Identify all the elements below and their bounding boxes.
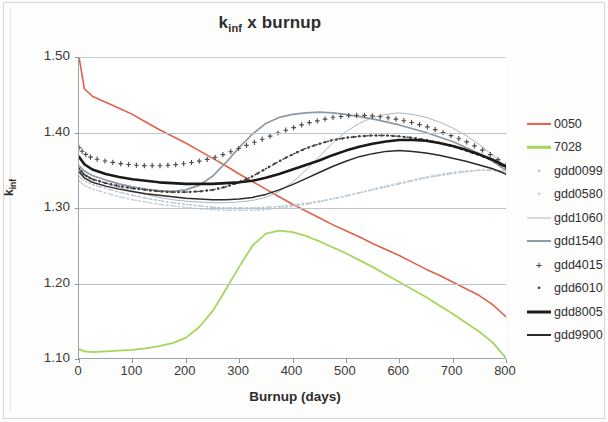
series-marker: [251, 175, 254, 178]
series-marker: [330, 198, 332, 200]
series-marker: [268, 134, 273, 139]
series-marker: [110, 183, 113, 186]
series-marker: [89, 187, 91, 189]
series-marker: [313, 144, 316, 147]
series-line-0050: [79, 57, 506, 317]
series-marker: [404, 181, 406, 183]
series-marker: [161, 200, 163, 202]
series-marker: [158, 163, 163, 168]
series-marker: [324, 141, 327, 144]
legend-item-gdd1060[interactable]: gdd1060: [527, 206, 605, 230]
legend-item-gdd0099[interactable]: •gdd0099: [527, 159, 605, 183]
legend-item-7028[interactable]: 7028: [527, 136, 605, 160]
legend-item-gdd6010[interactable]: •gdd6010: [527, 277, 605, 301]
series-marker: [369, 134, 372, 137]
series-marker: [150, 163, 155, 168]
legend-item-gdd0580[interactable]: •gdd0580: [527, 183, 605, 207]
series-marker: [335, 138, 338, 141]
series-marker: [181, 161, 186, 166]
series-marker: [307, 146, 310, 149]
series-marker: [245, 178, 248, 181]
x-tick-mark: [399, 359, 400, 363]
series-marker: [307, 120, 312, 125]
series-marker: [466, 170, 468, 172]
series-marker: [244, 143, 249, 148]
x-tick-mark: [186, 359, 187, 363]
series-marker: [80, 177, 82, 179]
series-marker: [132, 187, 135, 190]
legend-item-gdd9900[interactable]: gdd9900: [527, 324, 605, 348]
x-tick-label: 300: [218, 363, 258, 378]
series-marker: [252, 140, 257, 145]
legend-key-icon: •: [527, 281, 551, 295]
series-marker: [245, 209, 247, 211]
legend-item-gdd1540[interactable]: gdd1540: [527, 230, 605, 254]
chart-figure: kinf x burnup kinf 1.101.201.301.401.50 …: [0, 0, 608, 422]
series-marker: [84, 152, 89, 157]
series-marker: [488, 152, 493, 157]
series-marker: [116, 195, 118, 197]
series-marker: [331, 115, 336, 120]
series-marker: [256, 172, 259, 175]
series-marker: [85, 175, 88, 178]
series-marker: [126, 162, 131, 167]
series-marker: [155, 190, 158, 193]
series-marker: [222, 186, 225, 189]
series-marker: [471, 170, 473, 172]
series-marker: [104, 192, 106, 194]
series-marker: [375, 134, 378, 137]
plot-top-border: [79, 57, 506, 58]
legend-dot-icon: •: [537, 166, 540, 175]
legend-item-gdd8005[interactable]: gdd8005: [527, 300, 605, 324]
series-marker: [95, 157, 100, 162]
series-marker: [80, 170, 83, 173]
legend-label: gdd8005: [554, 305, 603, 319]
series-marker: [432, 175, 434, 177]
legend: 00507028•gdd0099•gdd0580gdd1060gdd1540+g…: [527, 112, 605, 347]
series-marker: [86, 181, 88, 183]
legend-item-gdd4015[interactable]: +gdd4015: [527, 253, 605, 277]
series-marker: [347, 136, 350, 139]
series-marker: [477, 169, 479, 171]
series-marker: [457, 136, 462, 141]
series-marker: [302, 148, 305, 151]
legend-line-icon: [527, 310, 551, 313]
series-marker: [88, 155, 93, 160]
series-marker: [299, 122, 304, 127]
series-marker: [211, 189, 214, 192]
series-marker: [394, 117, 399, 122]
series-line-7028: [79, 231, 506, 359]
series-marker: [426, 176, 428, 178]
series-marker: [144, 197, 146, 199]
series-marker: [353, 193, 355, 195]
series-marker: [381, 134, 384, 137]
series-marker: [206, 189, 209, 192]
legend-item-0050[interactable]: 0050: [527, 112, 605, 136]
series-marker: [166, 201, 168, 203]
chart-title-main: k: [219, 13, 229, 32]
x-tick-label: 800: [485, 363, 525, 378]
legend-label: 0050: [554, 117, 582, 131]
series-marker: [121, 192, 123, 194]
series-marker: [83, 179, 85, 181]
series-marker: [116, 191, 118, 193]
series-marker: [472, 143, 477, 148]
series-marker: [291, 125, 296, 130]
legend-key-icon: [527, 117, 551, 131]
series-marker: [138, 196, 140, 198]
y-axis-title: kinf: [2, 179, 18, 196]
series-marker: [370, 189, 372, 191]
series-marker: [341, 196, 343, 198]
series-marker: [397, 135, 400, 138]
series-marker: [364, 190, 366, 192]
series-marker: [449, 172, 451, 174]
series-marker: [273, 163, 276, 166]
series-7028: [79, 231, 506, 359]
legend-key-icon: •: [527, 164, 551, 178]
series-marker: [313, 202, 315, 204]
x-tick-label: 400: [272, 363, 312, 378]
legend-line-icon: [527, 334, 551, 336]
legend-line-icon: [527, 123, 551, 125]
x-tick-label: 600: [378, 363, 418, 378]
series-marker: [240, 209, 242, 211]
